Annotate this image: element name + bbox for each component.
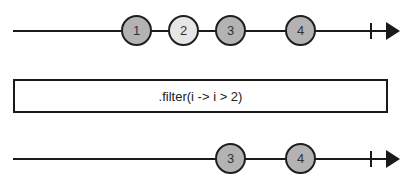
output-timeline-axis (13, 158, 388, 160)
input-completion-tick-icon (370, 23, 372, 39)
output-timeline: 3 4 (0, 139, 409, 179)
input-marble-1: 1 (121, 15, 152, 46)
output-marble-4: 4 (285, 143, 316, 174)
marble-label: 4 (297, 23, 304, 38)
input-marble-4: 4 (285, 15, 316, 46)
marble-label: 2 (180, 23, 187, 38)
input-timeline-axis (13, 30, 388, 32)
input-timeline: 1 2 3 4 (0, 11, 409, 51)
operator-label: .filter(i -> i > 2) (159, 89, 243, 104)
marble-label: 3 (227, 23, 234, 38)
output-completion-tick-icon (370, 151, 372, 167)
input-marble-3: 3 (215, 15, 246, 46)
input-time-arrow-icon (386, 22, 400, 40)
marble-label: 1 (133, 23, 140, 38)
output-marble-3: 3 (215, 143, 246, 174)
marble-label: 4 (297, 151, 304, 166)
input-marble-2: 2 (168, 15, 199, 46)
operator-box: .filter(i -> i > 2) (13, 79, 388, 113)
output-time-arrow-icon (386, 150, 400, 168)
marble-label: 3 (227, 151, 234, 166)
